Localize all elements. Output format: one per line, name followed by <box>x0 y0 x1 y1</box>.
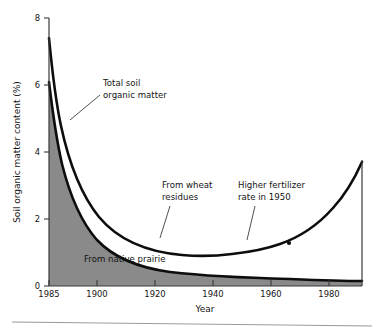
annotation-wheat-line1: From wheat <box>162 180 213 190</box>
x-tick-label-1980: 1980 <box>318 289 339 299</box>
y-tick-label-8: 8 <box>35 13 40 23</box>
annotation-fertilizer-line1: Higher fertilizer <box>238 180 305 190</box>
x-tick-label-1885: 1985 <box>38 289 59 299</box>
x-axis-title: Year <box>194 304 214 314</box>
soil-organic-matter-chart: 0 2 4 6 8 1985 1900 1920 1940 1960 1980 … <box>0 0 378 334</box>
annotation-total-line2: organic matter <box>103 90 167 100</box>
y-tick-label-6: 6 <box>35 80 40 90</box>
y-tick-label-4: 4 <box>35 147 40 157</box>
annotation-fertilizer-line2: rate in 1950 <box>238 192 291 202</box>
x-tick-label-1900: 1900 <box>86 289 107 299</box>
x-tick-label-1940: 1940 <box>202 289 223 299</box>
fertilizer-marker-point <box>287 241 291 245</box>
annotation-native-prairie: From native prairie <box>84 254 165 264</box>
annotation-wheat-line2: residues <box>162 192 199 202</box>
y-tick-label-2: 2 <box>35 214 40 224</box>
y-axis-title: Soil organic matter content (%) <box>12 81 22 223</box>
annotation-total-line1: Total soil <box>102 78 140 88</box>
x-tick-label-1920: 1920 <box>144 289 165 299</box>
x-tick-label-1960: 1960 <box>260 289 281 299</box>
chart-figure: 0 2 4 6 8 1985 1900 1920 1940 1960 1980 … <box>0 0 378 334</box>
